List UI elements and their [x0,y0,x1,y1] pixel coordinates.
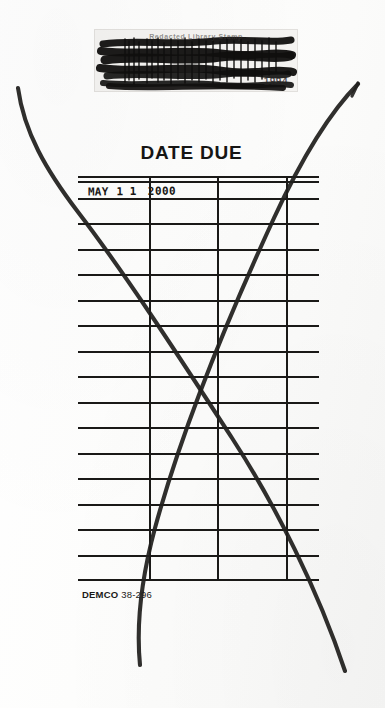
scanned-page: Redacted Library Stamp 1994 [0,0,385,708]
redacted-stamp-block: Redacted Library Stamp 1994 [94,29,298,92]
demco-imprint: DEMCO 38-296 [82,589,152,600]
page-title: DATE DUE [140,142,256,164]
date-due-grid [78,176,319,585]
stamp-day-digit-1: 1 [116,185,123,198]
due-date-stamp: MAY 1 1 2000 [88,181,192,202]
stamp-month: MAY [88,185,109,198]
stamp-day-digit-2: 1 [130,185,137,198]
demco-code: 38-296 [118,589,152,600]
redacted-faint-text: Redacted Library Stamp [95,33,297,40]
redacted-year-fragment: 1994 [264,76,288,87]
demco-brand: DEMCO [82,589,118,600]
form-header: DATE DUE [78,129,319,176]
stamp-year: 2000 [148,184,177,197]
date-due-form: DATE DUE [78,129,319,611]
